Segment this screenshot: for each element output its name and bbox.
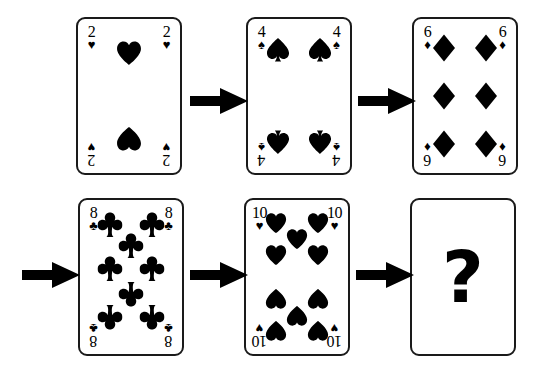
card-corner-index-br: 2♥ <box>158 141 175 168</box>
playing-card-4[interactable]: 8♣8♣8♣8♣ <box>78 198 184 356</box>
pip-hearts-icon <box>307 245 329 266</box>
playing-card-1[interactable]: 2♥2♥2♥2♥ <box>76 17 182 175</box>
pip-spades-icon <box>308 130 332 155</box>
sequence-arrow-right-icon-3 <box>22 262 80 288</box>
card-corner-index-tl: 2♥ <box>83 24 100 51</box>
pip-hearts-icon <box>307 213 329 234</box>
corner-suit-hearts-icon: ♥ <box>83 39 100 51</box>
playing-card-5[interactable]: 10♥10♥10♥10♥ <box>244 198 350 356</box>
pip-diamonds-icon <box>474 34 499 62</box>
pip-hearts-icon <box>116 127 142 151</box>
pip-clubs-icon <box>140 304 165 330</box>
playing-card-6[interactable]: ? <box>410 198 516 356</box>
card-corner-index-tr: 2♥ <box>158 24 175 51</box>
card-sequence-puzzle: 2♥2♥2♥2♥4♠4♠4♠4♠6♦6♦6♦6♦8♣8♣8♣8♣10♥10♥10… <box>0 0 540 377</box>
pip-hearts-icon <box>307 288 329 309</box>
pip-diamonds-icon <box>431 34 456 62</box>
pip-spades-icon <box>266 130 290 155</box>
corner-rank: 2 <box>158 153 175 168</box>
pip-hearts-icon <box>307 320 329 341</box>
pip-hearts-icon <box>265 213 287 234</box>
sequence-arrow-right-icon-1 <box>190 88 248 114</box>
corner-suit-hearts-icon: ♥ <box>158 141 175 153</box>
pip-clubs-icon <box>97 256 122 282</box>
question-mark: ? <box>412 200 514 354</box>
pip-hearts-icon <box>116 41 142 65</box>
pip-diamonds-icon <box>474 82 499 110</box>
sequence-arrow-right-icon-4 <box>190 262 248 288</box>
corner-rank: 8 <box>85 334 102 349</box>
corner-rank: 4 <box>253 153 270 168</box>
pip-hearts-icon <box>265 245 287 266</box>
pip-diamonds-icon <box>431 82 456 110</box>
corner-rank: 4 <box>328 153 345 168</box>
corner-suit-hearts-icon: ♥ <box>158 39 175 51</box>
pip-clubs-icon <box>97 304 122 330</box>
pip-diamonds-icon <box>474 130 499 158</box>
playing-card-3[interactable]: 6♦6♦6♦6♦ <box>412 17 518 175</box>
pip-clubs-icon <box>119 233 144 259</box>
sequence-arrow-right-icon-5 <box>356 262 414 288</box>
pip-clubs-icon <box>140 256 165 282</box>
pip-clubs-icon <box>140 212 165 238</box>
pip-hearts-icon <box>286 305 308 326</box>
pip-spades-icon <box>308 37 332 62</box>
card-corner-index-bl: 2♥ <box>83 141 100 168</box>
playing-card-2[interactable]: 4♠4♠4♠4♠ <box>246 17 352 175</box>
pip-hearts-icon <box>265 288 287 309</box>
pip-hearts-icon <box>286 228 308 249</box>
pip-spades-icon <box>266 37 290 62</box>
corner-suit-hearts-icon: ♥ <box>83 141 100 153</box>
corner-rank: 2 <box>83 153 100 168</box>
pip-hearts-icon <box>265 320 287 341</box>
sequence-arrow-right-icon-2 <box>358 88 416 114</box>
corner-rank: 8 <box>160 334 177 349</box>
pip-diamonds-icon <box>431 130 456 158</box>
